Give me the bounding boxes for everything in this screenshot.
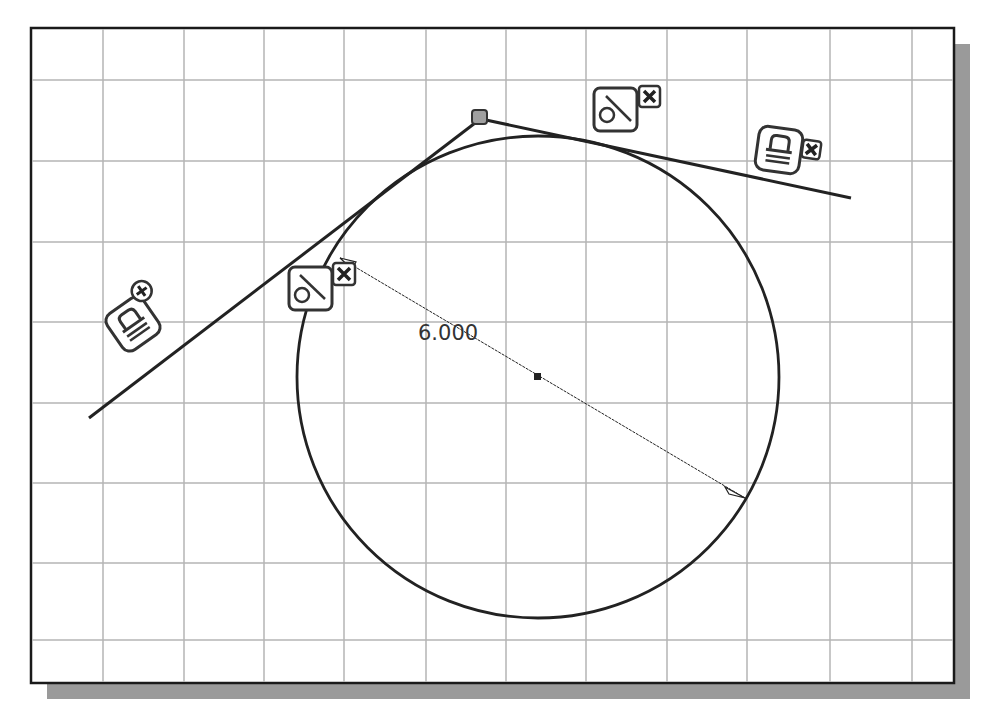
vertex-point[interactable] bbox=[472, 110, 487, 124]
circle-center-mark bbox=[534, 373, 541, 380]
dimension-value[interactable]: 6.000 bbox=[418, 321, 478, 345]
tangent-icon bbox=[594, 88, 637, 131]
tangent-icon bbox=[289, 267, 332, 310]
sketch-canvas[interactable]: 6.000 bbox=[0, 0, 997, 719]
